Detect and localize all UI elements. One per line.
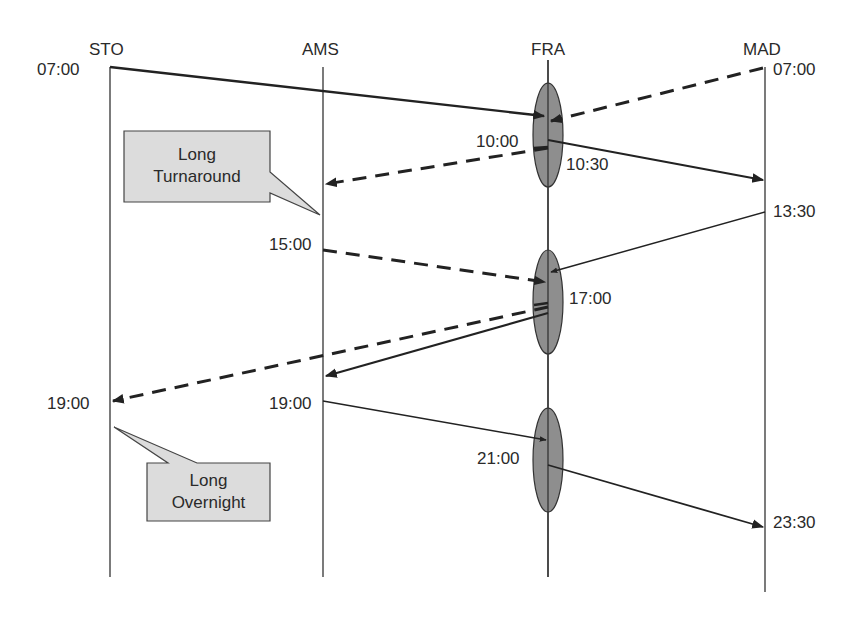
time-mad-0700: 07:00 (773, 61, 816, 79)
flight-fra-ams-dashed (326, 148, 548, 184)
station-label-fra: FRA (531, 41, 565, 59)
hub-schedule-diagram (0, 0, 864, 622)
station-label-sto: STO (89, 41, 124, 59)
tick-1000 (534, 147, 548, 148)
flight-mad-fra-dashed (551, 68, 763, 121)
time-sto-1900: 19:00 (47, 395, 90, 413)
time-fra-2100: 21:00 (477, 450, 520, 468)
flight-fra-ams (326, 313, 548, 376)
flight-ams-fra-dashed (323, 250, 545, 282)
time-fra-1700: 17:00 (569, 290, 612, 308)
flight-sto-fra (110, 67, 544, 116)
callout-overnight-text: Long Overnight (147, 470, 270, 514)
time-mad-1330: 13:30 (773, 203, 816, 221)
callout-overnight-line1: Long (147, 470, 270, 492)
time-sto-0700: 07:00 (37, 61, 80, 79)
callout-turnaround-line1: Long (124, 144, 270, 166)
callout-overnight-line2: Overnight (147, 492, 270, 514)
time-fra-1000: 10:00 (476, 133, 519, 151)
flight-fra-mad-late (548, 465, 763, 527)
flight-mad-fra-thin (551, 212, 765, 272)
flight-ams-fra-thin (323, 401, 546, 440)
time-ams-1900: 19:00 (269, 395, 312, 413)
station-label-ams: AMS (302, 41, 339, 59)
callout-turnaround-text: Long Turnaround (124, 144, 270, 188)
station-label-mad: MAD (743, 41, 781, 59)
flight-fra-sto-dashed (113, 307, 548, 401)
callout-turnaround-line2: Turnaround (124, 166, 270, 188)
time-mad-2330: 23:30 (773, 514, 816, 532)
time-ams-1500: 15:00 (269, 236, 312, 254)
time-fra-1030: 10:30 (566, 156, 609, 174)
